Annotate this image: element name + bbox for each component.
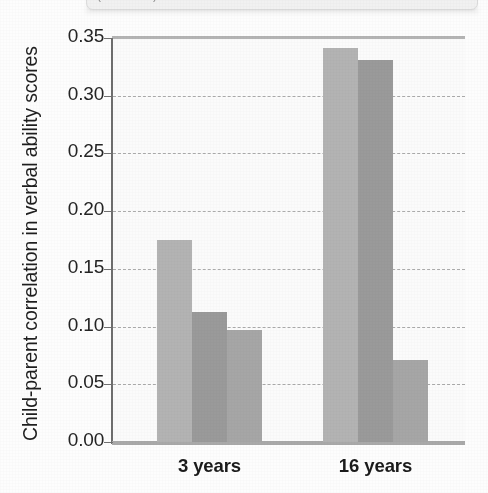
y-axis-tick-label: 0.35 <box>36 25 104 47</box>
figure-caption-box: (continued) <box>86 0 478 10</box>
y-axis-tick-label: 0.30 <box>36 83 104 105</box>
y-axis-tick-label: 0.25 <box>36 140 104 162</box>
x-axis-tick-label: 16 years <box>303 455 448 477</box>
bar <box>393 360 428 442</box>
y-axis-tick-label: 0.00 <box>36 429 104 451</box>
x-axis-tick-label: 3 years <box>137 455 282 477</box>
y-axis-tick-label: 0.15 <box>36 256 104 278</box>
y-axis-tick-label: 0.10 <box>36 314 104 336</box>
bar <box>157 240 192 442</box>
figure-caption-text: (continued) <box>97 0 157 2</box>
bar <box>358 60 393 442</box>
bars-group <box>112 38 465 442</box>
bar <box>227 330 262 442</box>
y-axis-tick-mark <box>104 442 113 443</box>
bar <box>323 48 358 442</box>
y-axis-tick-label: 0.20 <box>36 198 104 220</box>
bar <box>192 312 227 442</box>
y-axis-tick-label: 0.05 <box>36 371 104 393</box>
